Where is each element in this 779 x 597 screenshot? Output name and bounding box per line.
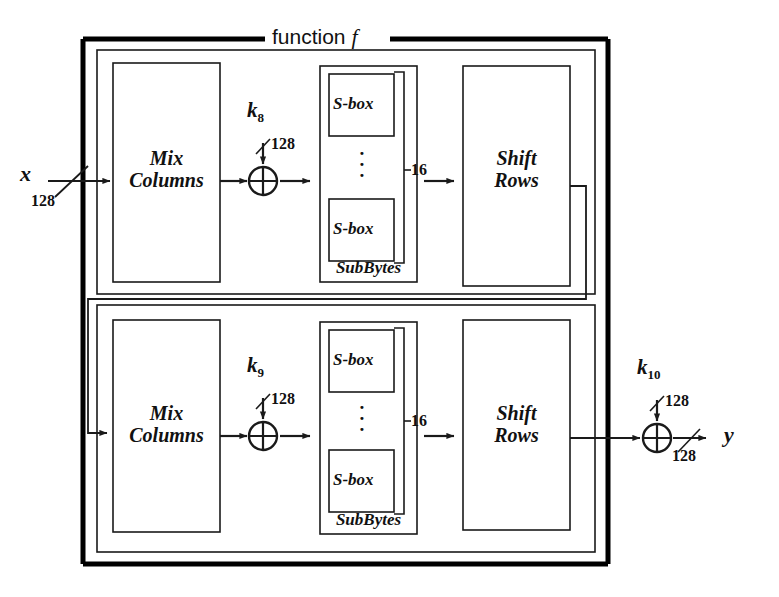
shift-rows-label-1-line1: Shift xyxy=(463,147,570,169)
sbox-bottom-label-1: S-box xyxy=(333,219,374,238)
mix-columns-label-1-line1: Mix xyxy=(113,147,220,169)
output-y-width-label: 128 xyxy=(672,447,696,465)
diagram-canvas: function f x 128 Mix Columns k8 128 S-bo… xyxy=(0,0,779,597)
key-label-k9-base: k xyxy=(247,353,258,377)
key-label-k9-sub: 9 xyxy=(258,365,265,380)
sbox-count-bracket-1 xyxy=(394,72,404,263)
subbytes-label-2: SubBytes xyxy=(320,510,417,529)
diagram-vector-layer xyxy=(0,0,779,597)
sbox-top-label-1: S-box xyxy=(333,94,374,113)
shift-rows-label-2-line2: Rows xyxy=(463,424,570,446)
key-width-label-k8: 128 xyxy=(271,135,295,153)
input-x-width-label: 128 xyxy=(31,192,55,210)
shift-rows-label-2: Shift Rows xyxy=(463,402,570,447)
sbox-count-label-2: 16 xyxy=(411,412,427,430)
key-label-k10: k10 xyxy=(637,356,661,383)
sbox-top-label-2: S-box xyxy=(333,350,374,369)
sbox-count-bracket-2 xyxy=(394,328,404,514)
key-width-label-k9: 128 xyxy=(271,390,295,408)
key-label-k9: k9 xyxy=(247,354,264,381)
mix-columns-label-2: Mix Columns xyxy=(113,402,220,447)
sbox-count-label-1: 16 xyxy=(411,161,427,179)
shift-rows-label-1-line2: Rows xyxy=(463,169,570,191)
key-label-k10-sub: 10 xyxy=(648,367,661,382)
mix-columns-label-2-line1: Mix xyxy=(113,402,220,424)
diagram-title-prefix: function xyxy=(272,25,346,48)
mix-columns-label-1-line2: Columns xyxy=(113,169,220,191)
subbytes-label-1: SubBytes xyxy=(320,258,417,277)
sbox-bottom-label-2: S-box xyxy=(333,470,374,489)
shift-rows-label-1: Shift Rows xyxy=(463,147,570,192)
key-label-k8-sub: 8 xyxy=(258,110,265,125)
mix-columns-label-1: Mix Columns xyxy=(113,147,220,192)
sbox-ellipsis-1: · · · xyxy=(340,148,384,181)
sbox-ellipsis-2: · · · xyxy=(340,402,384,435)
output-y-label: y xyxy=(724,423,734,448)
key-label-k10-base: k xyxy=(637,355,648,379)
shift-rows-label-2-line1: Shift xyxy=(463,402,570,424)
key-label-k8: k8 xyxy=(247,99,264,126)
input-x-label: x xyxy=(20,162,31,187)
key-width-label-k10: 128 xyxy=(665,392,689,410)
mix-columns-label-2-line2: Columns xyxy=(113,424,220,446)
key-label-k8-base: k xyxy=(247,98,258,122)
diagram-title-symbol: f xyxy=(351,24,357,49)
diagram-title: function f xyxy=(272,25,358,50)
